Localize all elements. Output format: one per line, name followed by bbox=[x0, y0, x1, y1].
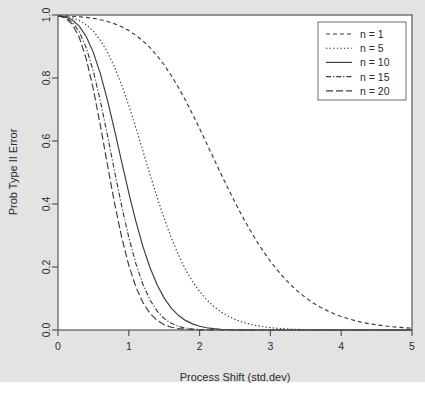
x-tick-label: 3 bbox=[267, 340, 273, 352]
x-tick-label: 2 bbox=[197, 340, 203, 352]
legend-label-n10: n = 10 bbox=[360, 56, 390, 68]
y-axis: 0.00.20.40.60.81.0 bbox=[40, 8, 58, 338]
x-tick-label: 4 bbox=[338, 340, 344, 352]
x-axis: 012345 bbox=[55, 330, 415, 352]
oc-curve-figure: 012345 0.00.20.40.60.81.0 Process Shift … bbox=[0, 0, 425, 396]
legend-label-n1: n = 1 bbox=[360, 28, 384, 40]
legend-label-n20: n = 20 bbox=[360, 85, 390, 97]
x-axis-title: Process Shift (std.dev) bbox=[180, 371, 291, 383]
x-tick-label: 5 bbox=[409, 340, 415, 352]
y-tick-label: 0.2 bbox=[40, 260, 52, 275]
y-tick-label: 0.6 bbox=[40, 134, 52, 149]
y-tick-label: 0.0 bbox=[40, 323, 52, 338]
y-axis-title: Prob Type II Error bbox=[7, 128, 19, 215]
x-tick-label: 1 bbox=[126, 340, 132, 352]
legend-label-n5: n = 5 bbox=[360, 42, 384, 54]
legend[interactable]: n = 1n = 5n = 10n = 15n = 20 bbox=[318, 22, 406, 100]
chart-canvas: 012345 0.00.20.40.60.81.0 Process Shift … bbox=[0, 0, 425, 396]
x-tick-label: 0 bbox=[55, 340, 61, 352]
y-tick-label: 1.0 bbox=[40, 8, 52, 23]
y-tick-label: 0.4 bbox=[40, 197, 52, 212]
y-tick-label: 0.8 bbox=[40, 71, 52, 86]
legend-label-n15: n = 15 bbox=[360, 71, 390, 83]
